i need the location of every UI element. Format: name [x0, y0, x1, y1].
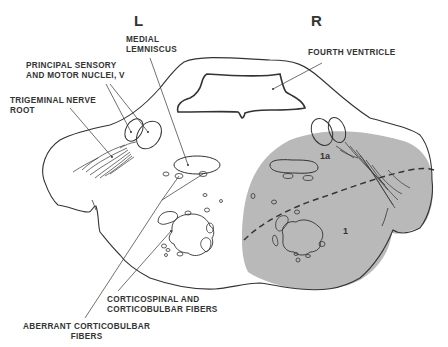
small-fiber-bundle [165, 254, 168, 257]
small-fiber-bundle [163, 172, 169, 176]
aberrant-label: ABERRANT CORTICOBULBAR FIBERS [23, 322, 150, 342]
label-line: AND MOTOR NUCLEI, V [26, 71, 125, 81]
small-fiber-bundle [162, 244, 167, 248]
region-1-label: 1 [343, 226, 348, 236]
fourth-ventricle-shape [178, 74, 305, 118]
small-fiber-bundle [205, 208, 210, 212]
left-side-label: L [134, 12, 143, 29]
label-line: TRIGEMINAL NERVE [10, 96, 96, 106]
label-line: MEDIAL [126, 35, 177, 45]
trigeminal-root-label: TRIGEMINAL NERVE ROOT [10, 96, 96, 116]
label-line: CORTICOBULBAR FIBERS [107, 305, 218, 315]
left-medial-lemniscus [174, 156, 220, 174]
medial-lemniscus-label: MEDIAL LEMNISCUS [126, 35, 177, 55]
label-line: ABERRANT CORTICOBULBAR [23, 322, 150, 332]
small-fiber-bundle [166, 249, 170, 252]
small-fiber-bundle [203, 194, 207, 197]
small-fiber-bundle [220, 200, 223, 203]
left-trigeminal-fibers [73, 142, 136, 178]
region-1a-label: 1a [320, 151, 330, 161]
label-line: ROOT [10, 106, 96, 116]
small-fiber-bundle [158, 211, 178, 224]
right-side-label: R [311, 12, 322, 29]
left-motor-nucleus [131, 116, 166, 153]
fourth-ventricle-label: FOURTH VENTRICLE [308, 48, 396, 58]
small-fiber-bundle [177, 252, 183, 256]
principal-nuclei-label: PRINCIPAL SENSORY AND MOTOR NUCLEI, V [26, 61, 125, 81]
label-line: LEMNISCUS [126, 45, 177, 55]
label-line: CORTICOSPINAL AND [107, 295, 218, 305]
shaded-lesion-region [242, 131, 433, 290]
corticospinal-label: CORTICOSPINAL AND CORTICOBULBAR FIBERS [107, 295, 218, 315]
label-line: FIBERS [23, 332, 150, 342]
label-line: PRINCIPAL SENSORY [26, 61, 125, 71]
